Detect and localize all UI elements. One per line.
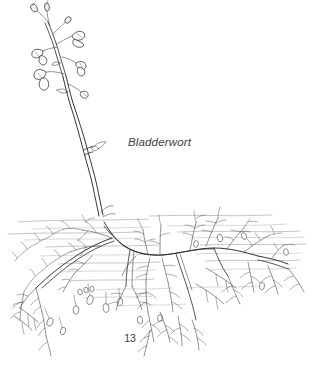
bladder-trap	[157, 314, 163, 322]
flower-raceme	[29, 0, 88, 98]
bladder-trap	[73, 305, 80, 314]
bladder-trap	[216, 234, 223, 243]
submerged-foliage-center	[107, 215, 182, 342]
bladder-trap	[283, 248, 289, 256]
flower-bud	[29, 3, 39, 13]
bladder-trap	[193, 240, 199, 248]
bladder-trap	[240, 232, 247, 240]
page-number: 13	[119, 332, 141, 344]
bladder-trap	[137, 316, 143, 325]
bladder-trap	[77, 288, 83, 295]
bladderwort-illustration	[0, 0, 323, 368]
bladder-trap	[60, 327, 67, 336]
open-flower	[34, 70, 64, 91]
illustration-page: Bladderwort 13	[0, 0, 323, 368]
plant-name-label: Bladderwort	[128, 136, 191, 148]
submerged-foliage-lower	[11, 292, 206, 356]
open-flower	[57, 31, 85, 47]
open-flower	[62, 57, 86, 76]
bladder-trap	[103, 303, 110, 312]
bladder-trap	[89, 286, 94, 292]
bladder-trap	[86, 295, 94, 305]
emergent-stem	[63, 76, 115, 217]
open-flower	[32, 47, 57, 65]
bladder-trap	[46, 317, 54, 327]
bladder-trap	[259, 282, 265, 290]
bladder-trap	[83, 287, 89, 294]
submerged-foliage-right	[183, 207, 304, 309]
